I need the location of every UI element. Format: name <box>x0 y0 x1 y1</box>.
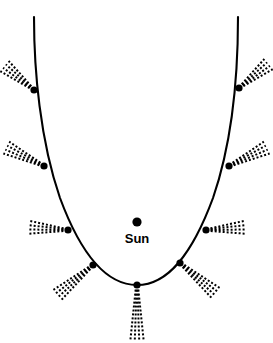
comet-tail-strand <box>211 231 247 234</box>
comet-tail-strand <box>135 290 137 340</box>
sun-label: Sun <box>125 232 150 245</box>
comet-position-upper-left <box>0 61 37 94</box>
comet-position-upper-right <box>235 59 272 92</box>
comet-nucleus-dot <box>89 261 96 268</box>
comet-tail-strand <box>60 269 90 301</box>
comet-tail-strand <box>183 267 213 299</box>
comet-tail-strand <box>242 59 265 84</box>
sun-marker-dot <box>132 217 141 226</box>
comet-tail-strand <box>234 154 270 166</box>
comet-tail-strand <box>6 64 31 86</box>
comet-position-mid-left <box>28 221 72 234</box>
comet-markers-layer <box>0 59 272 340</box>
comet-nucleus-dot <box>225 162 232 169</box>
comet-position-mid-right <box>202 221 246 234</box>
comet-nucleus-dot <box>40 162 47 169</box>
comet-nucleus-dot <box>235 84 242 91</box>
comet-nucleus-dot <box>64 226 71 233</box>
comet-tail-strand <box>9 61 32 86</box>
comet-position-midupper-left <box>3 142 47 170</box>
comet-tail-strand <box>137 290 139 340</box>
comet-position-lower-left <box>52 261 97 301</box>
comet-tail-strand <box>58 268 90 297</box>
comet-tail-strand <box>52 267 89 291</box>
orbit-diagram-canvas <box>0 0 273 343</box>
comet-nucleus-dot <box>30 86 37 93</box>
comet-nucleus-dot <box>133 281 140 288</box>
comet-position-perihelion <box>130 281 143 340</box>
comet-tail-strand <box>55 268 89 295</box>
comet-position-lower-right <box>176 259 221 299</box>
comet-tail-strand <box>184 265 221 289</box>
comet-position-midupper-right <box>225 142 269 170</box>
comet-tail-strand <box>211 229 246 230</box>
comet-tail-strand <box>183 266 215 295</box>
comet-tail-strand <box>184 266 218 293</box>
comet-tail-strand <box>242 62 267 84</box>
comet-nucleus-dot <box>202 226 209 233</box>
comet-nucleus-dot <box>176 259 183 266</box>
comet-tail-strand <box>28 231 64 234</box>
comet-orbit-figure: Sun <box>0 0 273 343</box>
comet-tail-strand <box>3 154 39 166</box>
